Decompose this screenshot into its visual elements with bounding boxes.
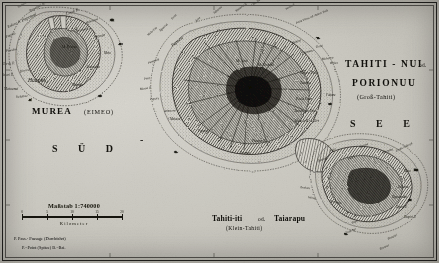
map-figure: MUREA (EIMEO) TAHITI - NUI od. PORIONUU …	[0, 0, 439, 263]
map-border-frame	[2, 2, 437, 261]
